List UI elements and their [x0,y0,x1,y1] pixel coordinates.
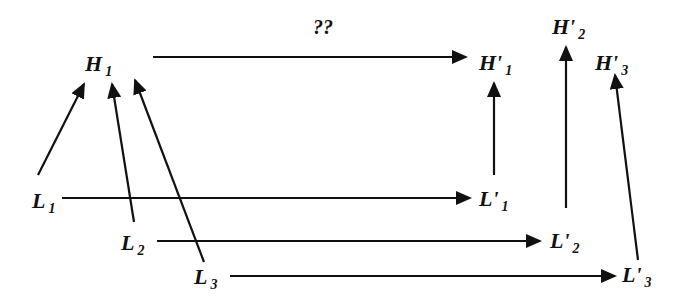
node-lp2-base: L' [550,228,570,253]
node-hp3: H'3 [595,52,628,78]
diagram-canvas [0,0,680,304]
node-h1-sub: 1 [105,64,112,79]
node-l3: L3 [194,266,217,292]
node-hp3-sub: 3 [621,63,628,78]
node-lp3: L'3 [622,264,652,290]
node-lp1-base: L' [479,186,499,211]
node-lp3-base: L' [622,262,642,287]
node-lp3-sub: 3 [645,275,652,290]
node-l2-sub: 2 [137,243,144,258]
node-h1-base: H [85,51,102,76]
node-lp2-sub: 2 [573,241,580,256]
edge-l2-to-h1 [112,84,134,222]
node-hp1-base: H' [479,50,502,75]
node-lp1-sub: 1 [502,199,509,214]
node-hp2-sub: 2 [578,27,585,42]
node-hp1-sub: 1 [505,63,512,78]
node-lp2: L'2 [550,230,580,256]
question-label: ?? [313,16,333,39]
node-l2: L2 [121,232,144,258]
node-l1: L1 [32,190,55,216]
node-hp2: H'2 [552,16,585,42]
node-l3-sub: 3 [210,277,217,292]
node-hp1: H'1 [479,52,512,78]
edge-l3-to-h1 [135,80,204,262]
node-lp1: L'1 [479,188,509,214]
node-hp2-base: H' [552,14,575,39]
node-l1-sub: 1 [48,201,55,216]
node-l1-base: L [32,188,45,213]
node-l2-base: L [121,230,134,255]
node-hp3-base: H' [595,50,618,75]
edge-lp3-to-hp3 [615,75,638,260]
node-h1: H1 [85,53,112,79]
node-l3-base: L [194,264,207,289]
edge-l1-to-h1 [38,84,84,175]
